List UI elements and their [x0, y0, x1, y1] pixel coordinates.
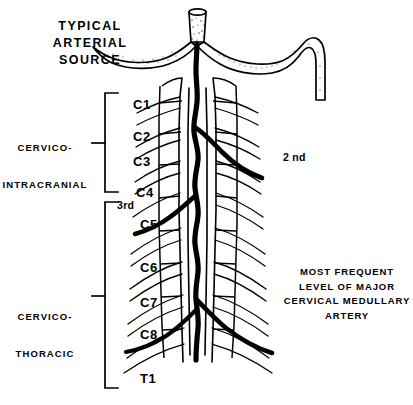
annotation-line-1: MOST FREQUENT: [283, 265, 411, 280]
region-label-cervico-intracranial-line-1: CERVICO-: [0, 139, 104, 157]
ordinal-label-3rd: 3rd: [117, 200, 134, 211]
major-artery-annotation: MOST FREQUENT LEVEL OF MAJOR CERVICAL ME…: [283, 265, 411, 323]
arterial-source-figure: TYPICAL ARTERIAL SOURCE CERVICO- INTRACR…: [0, 0, 413, 405]
ordinal-label-2nd: 2 nd: [283, 152, 306, 163]
level-label-c1: C1: [133, 98, 151, 111]
level-label-c3: C3: [133, 155, 151, 168]
title-line-3: SOURCE: [20, 52, 160, 69]
annotation-line-2: LEVEL OF MAJOR: [283, 280, 411, 295]
region-label-cervico-thoracic-line-2: THORACIC: [0, 345, 104, 363]
region-label-cervico-intracranial-line-2: INTRACRANIAL: [0, 176, 104, 194]
second-radicular-artery: [196, 128, 262, 178]
region-label-cervico-thoracic-line-1: CERVICO-: [0, 308, 104, 326]
region-label-cervico-intracranial: CERVICO- INTRACRANIAL: [0, 120, 104, 213]
level-label-c2: C2: [133, 130, 151, 143]
region-label-cervico-thoracic: CERVICO- THORACIC: [0, 289, 104, 382]
page-title: TYPICAL ARTERIAL SOURCE: [20, 18, 160, 69]
title-line-2: ARTERIAL: [20, 35, 160, 52]
level-label-c7: C7: [140, 296, 158, 309]
title-line-1: TYPICAL: [20, 18, 160, 35]
level-label-t1: T1: [140, 372, 156, 385]
nerve-roots-right: [212, 97, 272, 373]
annotation-line-4: ARTERY: [283, 309, 411, 324]
level-label-c5: C5: [140, 218, 158, 231]
right-vertebral-artery: [197, 38, 325, 100]
level-label-c6: C6: [140, 261, 158, 274]
annotation-line-3: CERVICAL MEDULLARY: [283, 294, 411, 309]
level-label-c8: C8: [140, 328, 158, 341]
basilar-artery: [189, 9, 206, 42]
level-label-c4: C4: [136, 186, 154, 199]
